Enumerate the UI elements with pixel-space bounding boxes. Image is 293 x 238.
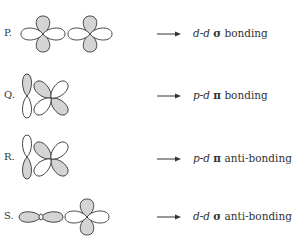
bond-type: bonding <box>224 27 267 39</box>
description-p: d-d σ bonding <box>193 27 268 39</box>
row-label-p: P. <box>4 27 12 38</box>
d-orbital-right <box>68 16 112 52</box>
d-orbital-diagonal <box>31 78 71 118</box>
row-label-r: R. <box>4 151 15 162</box>
description-r: p-d π anti-bonding <box>193 152 292 164</box>
d-orbital-left <box>21 16 65 52</box>
orbital-pair: d-d <box>193 27 210 39</box>
bond-symbol: σ <box>213 27 221 39</box>
p-orbital <box>23 135 32 179</box>
right-arrow-icon <box>157 94 181 99</box>
description-q: p-d π bonding <box>193 89 268 101</box>
row-label-q: Q. <box>4 89 15 100</box>
right-arrow-icon <box>157 215 181 220</box>
orbital-pair: d-d <box>193 210 210 222</box>
row-q-orbitals <box>23 74 71 118</box>
bond-symbol: π <box>213 152 221 164</box>
row-r-orbitals <box>23 135 71 179</box>
row-p-orbitals <box>21 16 112 52</box>
bond-type: anti-bonding <box>224 152 292 164</box>
row-s-orbitals <box>19 199 109 235</box>
orbital-pair: p-d <box>193 152 210 164</box>
d-orbital <box>65 199 109 235</box>
description-s: d-d σ anti-bonding <box>193 210 292 222</box>
d-orbital-diagonal <box>31 139 71 179</box>
dz2-orbital <box>19 212 63 223</box>
row-label-s: S. <box>4 210 14 221</box>
bond-symbol: σ <box>213 210 221 222</box>
orbital-pair: p-d <box>193 89 210 101</box>
bond-type: bonding <box>224 89 267 101</box>
right-arrow-icon <box>157 32 181 37</box>
bond-symbol: π <box>213 89 221 101</box>
right-arrow-icon <box>157 157 181 162</box>
bond-type: anti-bonding <box>224 210 292 222</box>
p-orbital <box>23 74 32 118</box>
